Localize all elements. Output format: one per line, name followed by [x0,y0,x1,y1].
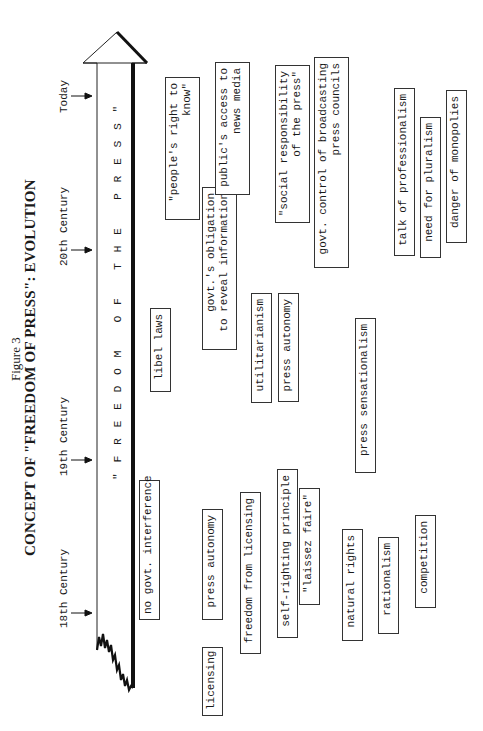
concept-text: "laissez faire" [302,494,314,593]
concept-box: press autonomy [278,293,299,402]
concept-box: press autonomy [202,509,223,620]
concept-text: talk of professionalism [397,94,409,246]
concept-text: need for pluralism [423,123,435,242]
concept-text: know" [181,83,193,116]
concept-box: rationalism [378,537,399,634]
concept-text: rationalism [381,543,393,616]
concept-text: to reveal information [218,193,230,332]
era-label-today: Today [58,80,70,113]
arrow-head [83,32,147,63]
concept-text: self-righting principle [280,475,292,627]
concept-box: libel laws [150,308,171,392]
figure-title: CONCEPT OF "FREEDOM OF PRESS": EVOLUTION [22,179,39,556]
concept-text: govt. control of broadcasting [317,63,329,254]
concept-text: utilitarianism [254,299,266,391]
arrow-torn-tail [97,634,133,690]
concept-box: freedom from licensing [240,492,261,654]
concept-text: danger of monopolies [449,96,461,228]
concept-text: press autonomy [281,299,293,391]
concept-text: press autonomy [205,515,217,607]
era-label-20th: 20th Century [58,187,70,266]
era-pointers [71,93,92,616]
concept-text: news media [231,68,243,134]
concept-text: competition [418,521,430,594]
era-label-19th: 19th Century [58,397,70,476]
concept-box: natural rights [342,529,363,641]
concept-box: talk of professionalism [394,88,415,256]
concept-text: "people's right to [168,83,180,202]
concept-box: "social responsibility of the press" [275,65,310,223]
concept-box: danger of monopolies [446,90,467,243]
concept-text: public's access to [218,68,230,187]
concept-text: press councils [330,63,342,155]
concept-text: licensing [205,651,217,710]
concept-box: no govt. interference [139,480,160,620]
concept-text: libel laws [153,314,165,380]
concept-text: freedom from licensing [243,498,255,643]
concept-box: licensing [202,647,223,716]
concept-box: need for pluralism [420,117,441,258]
concept-text: of the press" [291,71,303,157]
concept-box: public's access to news media [215,62,250,195]
concept-text: press sensationalism [358,324,370,456]
concept-box: utilitarianism [251,293,272,403]
concept-text: "social responsibility [278,71,290,216]
concept-box: competition [415,515,436,608]
concept-text: govt.'s obligation [205,193,217,312]
era-label-18th: 18th Century [58,549,70,628]
concept-text: no govt. interference [142,475,154,614]
concept-box: govt. control of broadcasting press coun… [314,57,349,268]
concept-box: "people's right to know" [165,77,200,220]
concept-box: "laissez faire" [299,488,320,605]
concept-text: natural rights [345,535,357,627]
concept-box: press sensationalism [355,318,376,473]
concept-box: govt.'s obligation to reveal information [202,187,237,350]
concept-box: self-righting principle [277,469,298,638]
arrow-banner-text: "FREEDOM OF THE PRESS" [111,95,124,480]
